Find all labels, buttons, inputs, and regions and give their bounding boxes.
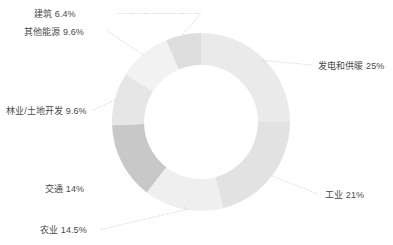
donut-slice-0 [201,33,290,122]
slice-label-transport: 交通 14% [45,184,84,195]
slice-label-agriculture: 农业 14.5% [40,225,87,236]
slice-label-forestry-land-use: 林业/土地开发 9.6% [6,106,87,117]
leader-line-other-energy [108,32,145,56]
donut-slices-group [112,33,290,211]
donut-slice-1 [215,122,290,208]
slice-label-building: 建筑 6.4% [34,9,76,20]
leader-line-power-heating [262,60,312,65]
leader-line-building-drop [183,14,201,34]
slice-label-industry: 工业 21% [325,190,364,201]
leader-line-agriculture [101,209,188,229]
donut-chart: 建筑 6.4% 其他能源 9.6% 林业/土地开发 9.6% 交通 14% 农业… [0,0,393,245]
slice-label-power-heating: 发电和供暖 25% [318,61,384,72]
slice-label-other-energy: 其他能源 9.6% [24,27,84,38]
leader-line-industry [270,175,318,194]
